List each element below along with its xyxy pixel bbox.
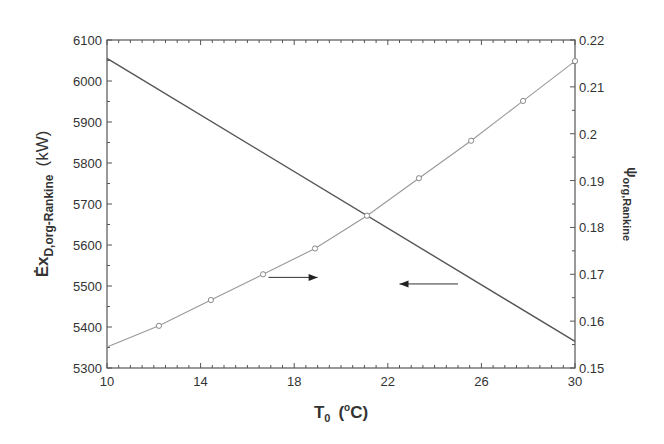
annotation-arrows — [268, 274, 458, 288]
y-right-tick-label: 0.18 — [579, 220, 604, 235]
data-marker — [520, 98, 525, 103]
y-right-tick-label: 0.15 — [579, 361, 604, 376]
arrow-left-head-icon — [400, 280, 409, 287]
y-left-tick-label: 5300 — [73, 361, 102, 376]
y-left-tick-label: 6000 — [73, 74, 102, 89]
x-axis-title: T0(oC) — [314, 402, 368, 424]
y-left-tick-label: 5500 — [73, 279, 102, 294]
y-axis-left: 530054005500560057005800590060006100 — [73, 33, 112, 376]
data-marker — [469, 138, 474, 143]
x-tick-label: 14 — [193, 374, 207, 389]
x-tick-label: 10 — [100, 374, 114, 389]
x-tick-label: 18 — [287, 374, 301, 389]
data-marker — [572, 58, 577, 63]
plot-frame — [107, 40, 575, 368]
y-right-tick-label: 0.21 — [579, 80, 604, 95]
y-right-tick-label: 0.16 — [579, 314, 604, 329]
x-tick-label: 22 — [381, 374, 395, 389]
y-left-tick-label: 5700 — [73, 197, 102, 212]
chart: 101418222630 530054005500560057005800590… — [0, 0, 664, 444]
efficiency-line — [107, 61, 575, 347]
data-marker — [312, 246, 317, 251]
y-right-tick-label: 0.22 — [579, 33, 604, 48]
data-marker — [208, 297, 213, 302]
y-left-tick-label: 5400 — [73, 320, 102, 335]
x-axis: 101418222630 — [100, 40, 582, 389]
y-left-tick-label: 6100 — [73, 33, 102, 48]
x-tick-label: 26 — [474, 374, 488, 389]
data-marker — [364, 213, 369, 218]
series-group — [107, 58, 578, 347]
y-right-tick-label: 0.17 — [579, 267, 604, 282]
y-right-tick-label: 0.19 — [579, 174, 604, 189]
data-marker — [156, 323, 161, 328]
plot-area-border — [107, 40, 575, 368]
y-left-tick-label: 5600 — [73, 238, 102, 253]
y-left-tick-label: 5900 — [73, 115, 102, 130]
y-right-tick-label: 0.2 — [579, 127, 597, 142]
data-marker — [260, 272, 265, 277]
y-left-tick-label: 5800 — [73, 156, 102, 171]
x-tick-label: 30 — [568, 374, 582, 389]
arrow-right-head-icon — [309, 274, 318, 281]
y-axis-right-title: ψorg,Rankine — [621, 167, 640, 241]
data-marker — [416, 176, 421, 181]
y-axis-left-title: ĖxD,org-Rankine(kW) — [33, 131, 56, 278]
exergy-destruction-line — [107, 58, 575, 341]
